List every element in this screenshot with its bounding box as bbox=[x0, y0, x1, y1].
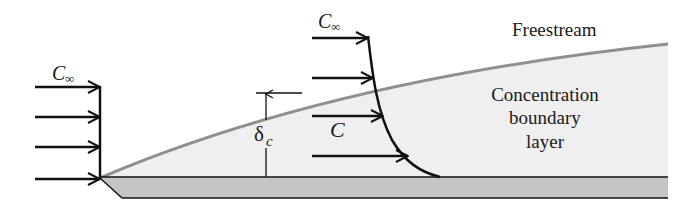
delta-sub: c bbox=[266, 133, 273, 149]
boundary-layer-diagram: Freestream Concentration boundary layer … bbox=[0, 0, 673, 207]
c-inf-right-label: C bbox=[318, 10, 332, 32]
region-label-1: Concentration bbox=[491, 84, 599, 105]
diagram-canvas: Freestream Concentration boundary layer … bbox=[0, 0, 673, 207]
c-inf-left-sub: ∞ bbox=[65, 71, 74, 86]
c-inf-right-sub: ∞ bbox=[331, 19, 340, 34]
c-inf-left-label: C bbox=[52, 62, 66, 84]
boundary-layer-region bbox=[100, 44, 668, 178]
delta-label: δ bbox=[254, 122, 264, 146]
freestream-label: Freestream bbox=[512, 19, 597, 40]
region-label-3: layer bbox=[526, 131, 565, 152]
upstream-profile bbox=[35, 86, 100, 179]
c-local-label: C bbox=[330, 117, 345, 142]
region-label-2: boundary bbox=[509, 107, 581, 128]
flat-plate bbox=[100, 177, 668, 198]
